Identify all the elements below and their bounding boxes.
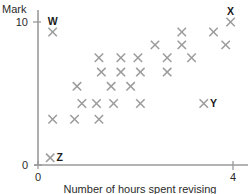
data-point-x	[226, 18, 234, 26]
x-tick-label-0: 0	[35, 171, 41, 183]
point-label-w: W	[48, 15, 58, 27]
data-point	[97, 68, 105, 76]
data-point	[78, 99, 86, 107]
scatter-plot-figure: WZXY 10 0 0 4 Mark Number of hours spent…	[0, 0, 252, 194]
data-point	[209, 28, 217, 36]
point-label-x: X	[227, 5, 234, 17]
data-point	[73, 82, 81, 90]
data-point	[151, 41, 159, 49]
data-point	[221, 41, 229, 49]
x-axis-title: Number of hours spent revising	[64, 183, 217, 194]
data-point	[136, 68, 144, 76]
data-point	[178, 41, 186, 49]
data-point-y	[200, 99, 208, 107]
x-tick-label-4: 4	[230, 171, 236, 183]
plot-canvas: WZXY 10 0 0 4 Mark Number of hours spent…	[0, 0, 252, 194]
data-point	[117, 68, 125, 76]
y-axis-group	[33, 10, 42, 169]
data-points-layer	[46, 18, 235, 162]
data-point	[163, 54, 171, 62]
y-tick-label-10: 10	[16, 16, 28, 28]
data-point	[126, 82, 134, 90]
x-axis-group	[34, 161, 248, 170]
data-point	[187, 54, 195, 62]
data-point	[163, 68, 171, 76]
data-point	[117, 54, 125, 62]
data-point	[48, 115, 56, 123]
data-point-z	[46, 154, 54, 162]
data-point	[134, 54, 142, 62]
data-point	[136, 99, 144, 107]
point-label-z: Z	[56, 151, 63, 163]
data-point	[107, 82, 115, 90]
data-point	[95, 54, 103, 62]
data-point	[70, 115, 78, 123]
y-axis-title: Mark	[2, 3, 27, 15]
data-point-w	[48, 28, 56, 36]
point-label-y: Y	[210, 97, 217, 109]
data-point	[109, 99, 117, 107]
data-point	[95, 115, 103, 123]
data-point	[178, 28, 186, 36]
data-point	[92, 99, 100, 107]
y-tick-label-0: 0	[22, 159, 28, 171]
